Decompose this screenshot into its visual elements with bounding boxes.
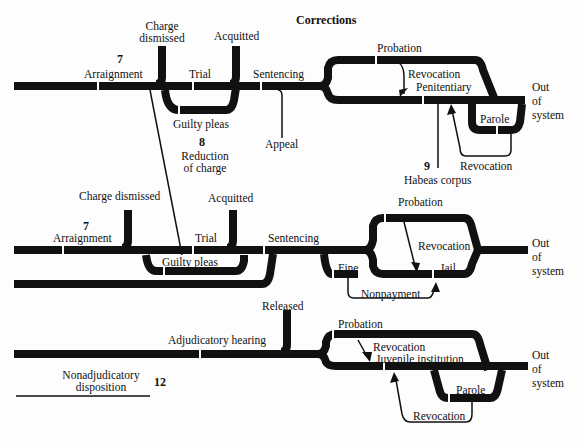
misd-acquitted-label: Acquitted: [208, 192, 253, 204]
juvenile-step-12: 12: [154, 376, 166, 388]
appeal-label: Appeal: [265, 138, 298, 150]
misd-revocation-label: Revocation: [418, 240, 470, 252]
reduction-step-8: 8: [199, 136, 205, 148]
juv-probation-label: Probation: [338, 318, 383, 330]
misd-arraignment-label: Arraignment: [53, 232, 112, 244]
of-text: of: [532, 94, 564, 108]
misd-probation-label: Probation: [398, 196, 443, 208]
out-text: Out: [532, 348, 564, 362]
juv-out-of-system: Out of system: [532, 348, 564, 390]
of-text: of: [532, 362, 564, 376]
nonadjudicatory-line-2: disposition: [56, 381, 146, 393]
felony-out-of-system: Out of system: [532, 80, 564, 122]
system-text: system: [532, 108, 564, 122]
nonpayment-label: Nonpayment: [361, 288, 420, 300]
juv-parole-label: Parole: [456, 384, 485, 396]
charge-dismissed-text: Charge dismissed: [137, 20, 187, 44]
reduction-line-1: Reduction: [175, 150, 235, 162]
felony-parole-label: Parole: [480, 113, 509, 125]
juv-parole-revocation-label: Revocation: [413, 410, 465, 422]
system-text: system: [532, 376, 564, 390]
misd-trial-label: Trial: [195, 232, 217, 244]
juvenile-institution-label: Juvenile institution: [376, 353, 464, 365]
felony-trial-label: Trial: [189, 68, 211, 80]
reduction-of-charge-label: Reduction of charge: [175, 150, 235, 174]
system-text: system: [532, 264, 564, 278]
corrections-title: Corrections: [296, 14, 356, 26]
habeas-step-9: 9: [424, 160, 430, 172]
habeas-corpus-label: Habeas corpus: [404, 174, 471, 186]
adjudicatory-hearing-label: Adjudicatory hearing: [168, 334, 266, 346]
misd-out-of-system: Out of system: [532, 236, 564, 278]
penitentiary-label: Penitentiary: [416, 81, 472, 93]
of-text: of: [532, 250, 564, 264]
misdemeanor-thin-lines: [348, 222, 434, 298]
misd-step-7: 7: [83, 220, 89, 232]
fine-label: Fine: [338, 262, 358, 274]
out-text: Out: [532, 236, 564, 250]
misd-guilty-pleas-label: Guilty pleas: [162, 256, 218, 268]
juv-revocation-label: Revocation: [373, 341, 425, 353]
felony-arraignment-label: Arraignment: [84, 68, 143, 80]
felony-probation-label: Probation: [377, 42, 422, 54]
parole-revocation-label: Revocation: [460, 160, 512, 172]
felony-sentencing-label: Sentencing: [253, 68, 304, 80]
nonadjudicatory-line-1: Nonadjudicatory: [56, 369, 146, 381]
misd-sentencing-label: Sentencing: [268, 232, 319, 244]
jail-label: Jail: [440, 262, 456, 274]
released-label: Released: [262, 300, 304, 312]
felony-acquitted-label: Acquitted: [214, 30, 259, 42]
misd-charge-dismissed-label: Charge dismissed: [79, 190, 160, 202]
nonadjudicatory-disposition-label: Nonadjudicatory disposition: [56, 369, 146, 393]
out-text: Out: [532, 80, 564, 94]
felony-step-7: 7: [117, 53, 123, 65]
reduction-line-2: of charge: [175, 162, 235, 174]
felony-guilty-pleas-label: Guilty pleas: [173, 118, 229, 130]
felony-charge-dismissed-label: Charge dismissed: [137, 20, 187, 44]
felony-revocation-label: Revocation: [408, 68, 460, 80]
